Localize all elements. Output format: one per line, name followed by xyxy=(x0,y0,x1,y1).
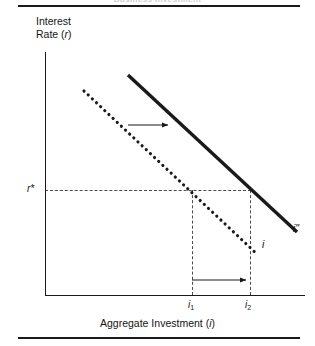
x-tick-label-quantity-one: i1 xyxy=(188,299,194,310)
i-one-subscript: 1 xyxy=(190,304,194,311)
r-star-text: r* xyxy=(27,183,34,194)
x-axis-title: Aggregate Investment (i) xyxy=(0,317,315,330)
i-two-subscript: 2 xyxy=(247,304,251,311)
investment-demand-curve-shifted xyxy=(128,75,297,232)
x-axis-title-suffix: ) xyxy=(212,317,216,329)
x-tick-label-quantity-two: i2 xyxy=(245,299,251,310)
curves-layer xyxy=(0,0,315,346)
y-axis-title-line2-suffix: ) xyxy=(68,28,72,40)
y-tick-label-equilibrium-rate: r* xyxy=(27,183,34,194)
curve-label-original: i xyxy=(262,238,264,250)
y-axis-title: Interest Rate (r) xyxy=(36,15,72,41)
y-axis-title-line1: Interest xyxy=(36,15,71,27)
x-axis-title-prefix: Aggregate Investment ( xyxy=(100,317,209,329)
figure-container: Business Investment Interest Rate (r) Ag… xyxy=(0,0,315,346)
curve-label-shifted: i" xyxy=(293,222,299,234)
y-axis-title-line2-prefix: Rate ( xyxy=(36,28,65,40)
